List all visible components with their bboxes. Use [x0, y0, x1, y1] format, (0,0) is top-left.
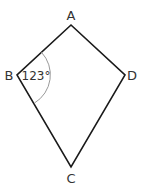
angle-value-b: 123° [22, 69, 51, 83]
vertex-label-c: C [66, 171, 75, 186]
vertex-label-b: B [5, 68, 14, 83]
kite-shape [17, 25, 125, 167]
vertex-label-a: A [67, 8, 76, 23]
kite-diagram: A B D C 123° [0, 0, 152, 193]
vertex-label-d: D [127, 68, 137, 83]
